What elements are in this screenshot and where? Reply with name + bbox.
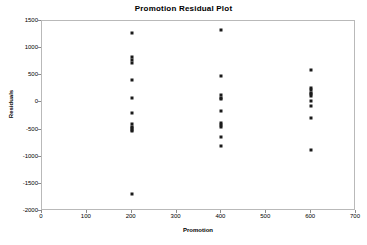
chart-title: Promotion Residual Plot [0, 4, 367, 13]
x-tick-label: 400 [215, 213, 225, 219]
data-point [310, 68, 313, 71]
data-point [130, 32, 133, 35]
x-tick-label: 500 [260, 213, 270, 219]
x-axis-title: Promotion [41, 227, 355, 233]
plot-area [42, 21, 354, 209]
data-point [220, 109, 223, 112]
y-axis-tick-marks [0, 20, 41, 210]
x-tick-label: 100 [81, 213, 91, 219]
data-point [220, 144, 223, 147]
data-point [220, 29, 223, 32]
data-point [130, 61, 133, 64]
plot-frame [41, 20, 355, 210]
data-point [220, 75, 223, 78]
x-tick-label: 600 [305, 213, 315, 219]
data-point [220, 125, 223, 128]
data-point [130, 129, 133, 132]
data-point [310, 116, 313, 119]
data-point [130, 78, 133, 81]
data-point [310, 100, 313, 103]
x-tick-label: 300 [171, 213, 181, 219]
x-tick-label: 700 [350, 213, 360, 219]
x-tick-label: 0 [39, 213, 42, 219]
residual-scatter-chart: Promotion Residual Plot Residuals 150010… [0, 0, 367, 245]
x-axis-tick-labels: 0100200300400500600700 [41, 213, 355, 225]
data-point [310, 149, 313, 152]
x-tick-label: 200 [126, 213, 136, 219]
data-point [130, 192, 133, 195]
data-point [130, 96, 133, 99]
data-point [130, 112, 133, 115]
data-point [310, 94, 313, 97]
data-point [220, 136, 223, 139]
data-point [220, 97, 223, 100]
data-point [310, 104, 313, 107]
